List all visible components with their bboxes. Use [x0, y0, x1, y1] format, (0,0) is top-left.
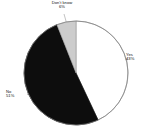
pie-label-no: No 51%: [6, 90, 30, 99]
pie-label-dont-know-percent: 6%: [40, 5, 84, 9]
pie-slices: [24, 21, 128, 125]
pie-chart: Don't know 6% Yes 43% No 51%: [0, 0, 152, 139]
leader-line-dont-know: [64, 14, 66, 22]
pie-label-yes-percent: 43%: [126, 57, 150, 61]
pie-label-yes: Yes 43%: [126, 53, 150, 62]
pie-chart-canvas: [0, 0, 152, 139]
pie-label-dont-know: Don't know 6%: [40, 1, 84, 10]
pie-label-no-percent: 51%: [6, 94, 30, 98]
